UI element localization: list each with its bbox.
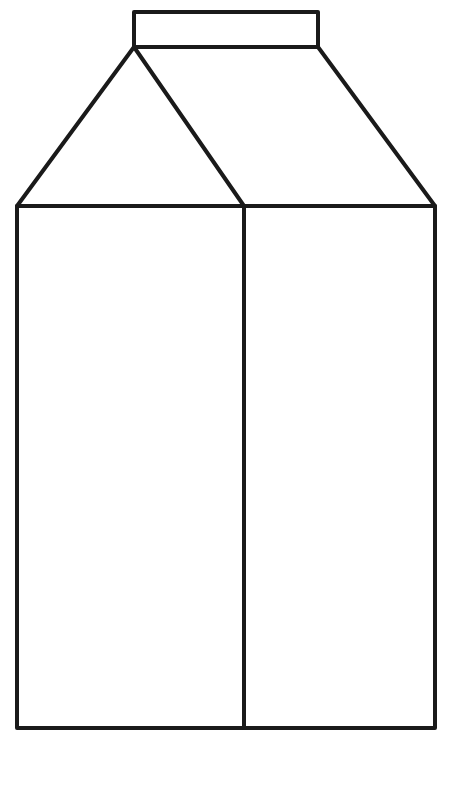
milk-carton-drawing (0, 0, 468, 796)
roof-front-left-edge (17, 47, 134, 206)
carton-body (17, 206, 435, 728)
roof-front-right-edge (134, 47, 244, 206)
roof-side-right-edge (318, 47, 435, 206)
carton-cap (134, 12, 318, 47)
